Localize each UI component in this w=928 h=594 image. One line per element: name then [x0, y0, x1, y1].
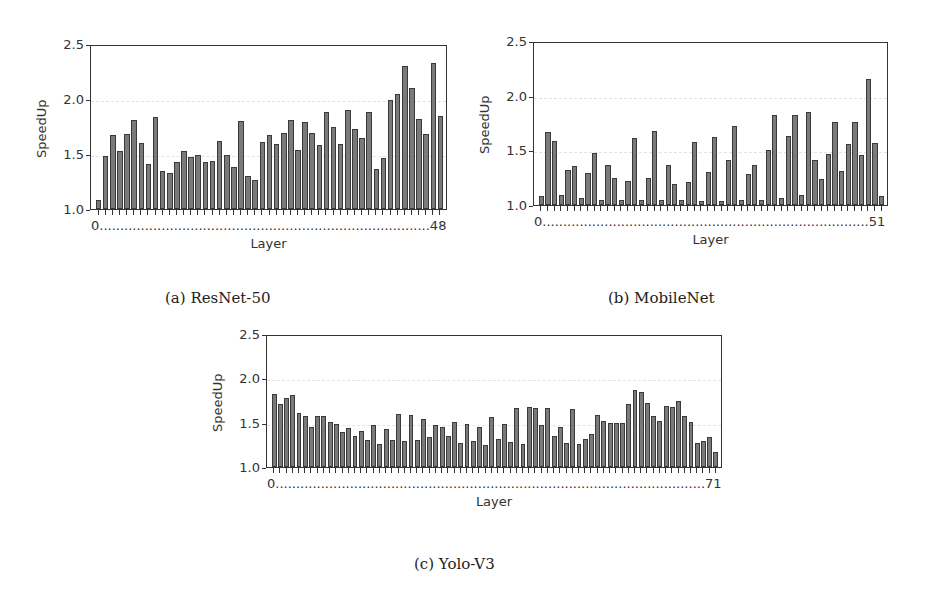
- bar: [565, 170, 570, 205]
- bar: [689, 422, 694, 467]
- bar: [832, 122, 837, 205]
- bar: [195, 155, 201, 209]
- bar: [759, 200, 764, 205]
- gridline: [534, 98, 887, 99]
- bar: [713, 452, 718, 467]
- bar: [440, 427, 445, 467]
- bar: [539, 196, 544, 205]
- bar: [346, 428, 351, 467]
- bar: [396, 414, 401, 467]
- bar: [620, 423, 625, 467]
- bar: [846, 144, 851, 205]
- y-axis-label: SpeedUp: [34, 99, 49, 158]
- y-tick-label: 2.0: [226, 371, 260, 386]
- plot-area: [533, 42, 888, 206]
- bar: [772, 115, 777, 205]
- bar: [110, 135, 116, 209]
- bar: [806, 112, 811, 205]
- bar: [679, 200, 684, 205]
- bar: [390, 440, 395, 467]
- bar: [599, 200, 604, 205]
- bar: [359, 138, 365, 210]
- bar: [452, 422, 457, 467]
- bar: [514, 408, 519, 467]
- bar: [682, 416, 687, 467]
- bar: [786, 136, 791, 205]
- bar: [371, 425, 376, 467]
- x-tick-labels: 0.......................................…: [91, 218, 454, 233]
- bar: [489, 417, 494, 467]
- bar: [433, 425, 438, 467]
- bar: [608, 423, 613, 467]
- bar: [384, 429, 389, 467]
- bar: [359, 431, 364, 467]
- bar: [701, 441, 706, 467]
- bar: [625, 181, 630, 205]
- bar: [670, 407, 675, 467]
- y-tick-label: 1.0: [50, 202, 84, 217]
- bar: [619, 200, 624, 205]
- bar: [224, 155, 230, 209]
- bar: [458, 443, 463, 467]
- bar: [746, 174, 751, 205]
- bar: [281, 133, 287, 209]
- bar: [639, 392, 644, 467]
- caption-mobilenet: (b) MobileNet: [608, 289, 715, 307]
- bar: [695, 443, 700, 467]
- bar: [521, 444, 526, 467]
- bar: [288, 120, 294, 209]
- y-tick-label: 2.5: [50, 37, 84, 52]
- bar: [423, 134, 429, 209]
- bar: [595, 415, 600, 467]
- bar: [238, 121, 244, 209]
- bar: [651, 416, 656, 467]
- bar: [446, 436, 451, 467]
- bar: [477, 427, 482, 467]
- bar: [431, 63, 437, 209]
- x-tick-labels: 0.......................................…: [534, 214, 895, 229]
- bar: [652, 131, 657, 205]
- bar: [272, 394, 277, 467]
- bar: [415, 440, 420, 467]
- bar: [502, 424, 507, 467]
- bar: [331, 127, 337, 210]
- bar: [471, 441, 476, 467]
- bar: [626, 404, 631, 467]
- bar: [866, 79, 871, 205]
- bar: [96, 200, 102, 209]
- bar: [699, 201, 704, 205]
- bar: [181, 151, 187, 209]
- y-axis-label: SpeedUp: [210, 373, 225, 432]
- bar: [589, 434, 594, 467]
- bar: [409, 415, 414, 467]
- bar: [267, 135, 273, 209]
- bar: [859, 155, 864, 205]
- bar: [188, 157, 194, 209]
- bar: [388, 100, 394, 209]
- bar: [726, 160, 731, 205]
- x-tick-labels: 0.......................................…: [267, 476, 729, 491]
- bar: [707, 437, 712, 467]
- bar: [328, 422, 333, 467]
- bar: [297, 413, 302, 467]
- bar: [779, 198, 784, 205]
- bar: [533, 408, 538, 467]
- bar: [645, 403, 650, 467]
- bar: [315, 416, 320, 467]
- bar: [427, 437, 432, 467]
- bar: [309, 427, 314, 467]
- bar: [585, 173, 590, 205]
- bar: [572, 166, 577, 205]
- bar: [552, 141, 557, 206]
- bar: [666, 165, 671, 205]
- bar: [395, 94, 401, 210]
- bar: [639, 200, 644, 205]
- bar: [719, 201, 724, 205]
- caption-yolov3: (c) Yolo-V3: [414, 555, 495, 573]
- bar: [812, 160, 817, 205]
- x-axis-label: Layer: [266, 494, 722, 509]
- bar: [374, 169, 380, 209]
- bar: [545, 132, 550, 205]
- bar: [252, 180, 258, 209]
- bar: [352, 129, 358, 209]
